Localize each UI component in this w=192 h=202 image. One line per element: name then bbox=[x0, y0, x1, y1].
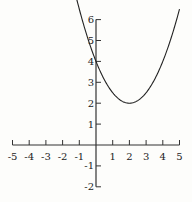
y-tick-label: 1 bbox=[88, 119, 94, 130]
y-tick-label: 4 bbox=[88, 56, 94, 67]
x-tick-label: -2 bbox=[58, 151, 68, 162]
x-tick-label: -1 bbox=[74, 151, 84, 162]
x-tick-label: -4 bbox=[24, 151, 34, 162]
x-tick-label: 3 bbox=[143, 151, 149, 162]
y-tick-label: 3 bbox=[88, 77, 94, 88]
x-tick-label: 2 bbox=[126, 151, 132, 162]
parabola-chart: -5-4-3-2-112345-2-1123456 bbox=[0, 0, 192, 202]
x-tick-label: 1 bbox=[110, 151, 116, 162]
y-tick-label: 6 bbox=[88, 14, 94, 25]
x-tick-label: 5 bbox=[176, 151, 182, 162]
tick-labels: -5-4-3-2-112345-2-1123456 bbox=[8, 14, 183, 192]
x-tick-label: 4 bbox=[160, 151, 166, 162]
x-tick-label: -3 bbox=[41, 151, 51, 162]
y-tick-label: 2 bbox=[88, 98, 94, 109]
y-tick-label: -2 bbox=[84, 181, 94, 192]
x-tick-label: -5 bbox=[8, 151, 18, 162]
y-tick-label: -1 bbox=[84, 160, 94, 171]
